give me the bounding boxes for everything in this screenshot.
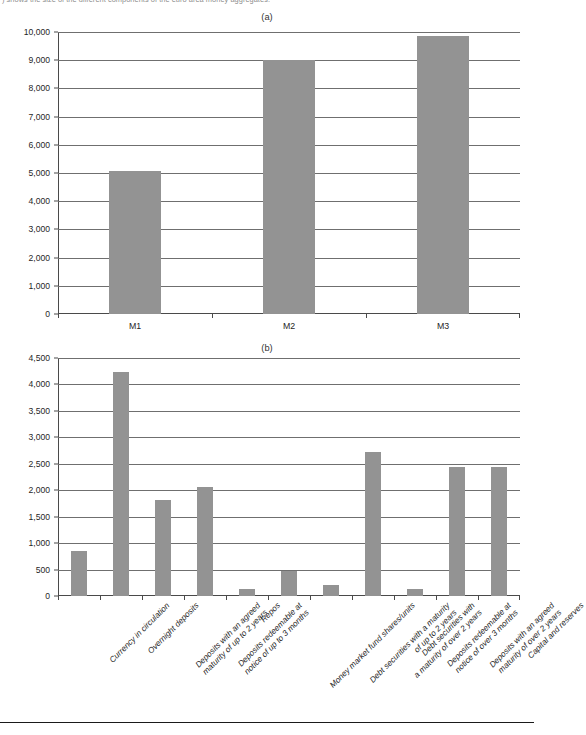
y-axis-tick-label: 8,000 bbox=[4, 83, 50, 93]
x-tick-mark bbox=[519, 314, 520, 318]
y-axis-tick-label: 7,000 bbox=[4, 112, 50, 122]
y-axis-tick-label: 6,000 bbox=[4, 140, 50, 150]
chart-b-category-labels: Currency in circulationOvernight deposit… bbox=[0, 356, 534, 481]
y-axis-tick-label: 0 bbox=[4, 591, 50, 601]
y-tick-mark bbox=[54, 543, 58, 544]
y-tick-mark bbox=[54, 173, 58, 174]
top-caption-text: ) shows the size of the different compon… bbox=[2, 0, 270, 4]
bar bbox=[323, 585, 340, 596]
bar bbox=[491, 467, 508, 596]
y-axis-tick-label: 0 bbox=[4, 309, 50, 319]
y-tick-mark bbox=[54, 201, 58, 202]
y-axis-tick-label: 5,000 bbox=[4, 168, 50, 178]
x-axis-category-label: M3 bbox=[437, 321, 449, 331]
x-tick-mark bbox=[268, 596, 269, 600]
bar bbox=[263, 60, 315, 314]
y-tick-mark bbox=[54, 516, 58, 517]
panel-a-title: (a) bbox=[0, 12, 534, 22]
footer-rule bbox=[0, 722, 534, 723]
x-tick-mark bbox=[58, 314, 59, 318]
x-tick-mark bbox=[436, 596, 437, 600]
y-tick-mark bbox=[54, 32, 58, 33]
x-tick-mark bbox=[366, 314, 367, 318]
x-tick-mark bbox=[394, 596, 395, 600]
y-axis-tick-label: 1,000 bbox=[4, 538, 50, 548]
bar bbox=[449, 467, 466, 596]
y-axis-tick-label: 9,000 bbox=[4, 55, 50, 65]
y-axis-tick-label: 1,500 bbox=[4, 512, 50, 522]
x-tick-mark bbox=[142, 596, 143, 600]
y-axis-tick-label: 2,000 bbox=[4, 253, 50, 263]
x-tick-mark bbox=[352, 596, 353, 600]
gridline bbox=[58, 32, 520, 33]
x-tick-mark bbox=[519, 596, 520, 600]
bar bbox=[109, 171, 161, 314]
bar bbox=[197, 487, 214, 596]
x-tick-mark bbox=[58, 596, 59, 600]
y-axis-tick-label: 2,000 bbox=[4, 485, 50, 495]
x-axis-category-label: M1 bbox=[129, 321, 141, 331]
y-tick-mark bbox=[54, 229, 58, 230]
bar bbox=[407, 589, 424, 596]
y-axis-tick-label: 1,000 bbox=[4, 281, 50, 291]
y-tick-mark bbox=[54, 569, 58, 570]
y-axis-tick-label: 10,000 bbox=[4, 27, 50, 37]
top-caption: ) shows the size of the different compon… bbox=[0, 0, 534, 7]
x-axis-category-label: Overnight deposits bbox=[146, 601, 201, 656]
x-tick-mark bbox=[184, 596, 185, 600]
y-tick-mark bbox=[54, 490, 58, 491]
bar bbox=[281, 571, 298, 596]
y-axis-tick-label: 3,000 bbox=[4, 224, 50, 234]
y-tick-mark bbox=[54, 144, 58, 145]
y-tick-mark bbox=[54, 60, 58, 61]
panel-b-title: (b) bbox=[0, 343, 534, 353]
x-tick-mark bbox=[100, 596, 101, 600]
y-axis-tick-label: 4,000 bbox=[4, 196, 50, 206]
chart-a-plot-area: 01,0002,0003,0004,0005,0006,0007,0008,00… bbox=[58, 32, 520, 314]
y-tick-mark bbox=[54, 116, 58, 117]
y-tick-mark bbox=[54, 285, 58, 286]
chart-a: 01,0002,0003,0004,0005,0006,0007,0008,00… bbox=[0, 28, 534, 328]
bar bbox=[417, 36, 469, 314]
x-axis-category-label: M2 bbox=[283, 321, 295, 331]
y-tick-mark bbox=[54, 88, 58, 89]
bar bbox=[71, 551, 88, 596]
x-tick-mark bbox=[226, 596, 227, 600]
bar bbox=[239, 589, 256, 596]
x-tick-mark bbox=[478, 596, 479, 600]
chart-b: 05001,0001,5002,0002,5003,0003,5004,0004… bbox=[0, 356, 534, 608]
x-tick-mark bbox=[212, 314, 213, 318]
bar bbox=[155, 500, 172, 596]
x-tick-mark bbox=[310, 596, 311, 600]
y-axis-tick-label: 500 bbox=[4, 565, 50, 575]
y-tick-mark bbox=[54, 257, 58, 258]
